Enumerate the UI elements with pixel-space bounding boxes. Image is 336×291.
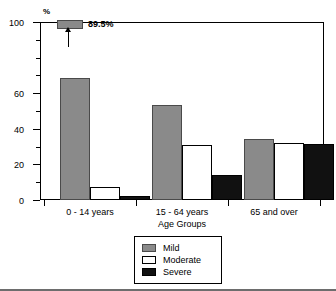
bar-group-0-14-years: 0 - 14 years — [44, 22, 136, 200]
x-label-15-64-years: 15 - 64 years — [156, 208, 209, 217]
y-tick-30 — [36, 147, 40, 148]
bar-group-15-64-years: 15 - 64 years — [136, 22, 228, 200]
x-tick-2 — [228, 200, 229, 206]
y-tick-label-20: 20 — [14, 161, 24, 170]
bar-group-65-and-over: 65 and over — [228, 22, 320, 200]
y-tick-100: 100 — [33, 22, 40, 23]
legend: Mild Moderate Severe — [134, 236, 222, 284]
bar-moderate-15-64-years — [182, 145, 212, 200]
bar-moderate-65-and-over — [274, 143, 304, 200]
legend-swatch-severe — [142, 268, 156, 276]
y-axis-unit-label: % — [43, 8, 50, 16]
x-tick-3 — [320, 200, 321, 206]
callout-value-label: 89.5% — [88, 20, 114, 29]
legend-item-mild: Mild — [142, 242, 214, 254]
y-tick-0: 0 — [33, 200, 40, 201]
x-tick-1 — [136, 200, 137, 206]
legend-label-severe: Severe — [163, 268, 192, 277]
chart-figure: % 100 60 40 20 0 — [0, 0, 336, 291]
legend-label-moderate: Moderate — [163, 256, 201, 265]
bar-mild-65-and-over — [244, 139, 274, 200]
x-label-0-14-years: 0 - 14 years — [66, 208, 114, 217]
y-tick-80 — [36, 58, 40, 59]
y-tick-10 — [36, 182, 40, 183]
legend-swatch-mild — [142, 244, 156, 252]
y-tick-50 — [36, 111, 40, 112]
legend-item-severe: Severe — [142, 266, 214, 278]
bar-severe-65-and-over — [304, 144, 334, 200]
x-label-65-and-over: 65 and over — [250, 208, 298, 217]
bar-moderate-0-14-years — [90, 187, 120, 200]
plot-area: 100 60 40 20 0 — [40, 22, 324, 200]
legend-swatch-moderate — [142, 256, 156, 264]
y-tick-label-40: 40 — [14, 125, 24, 134]
callout-arrow-icon — [68, 31, 69, 47]
y-tick-70 — [36, 75, 40, 76]
x-axis-title: Age Groups — [40, 219, 324, 229]
bar-mild-0-14-years — [60, 78, 90, 200]
y-tick-20: 20 — [33, 164, 40, 165]
y-tick-label-60: 60 — [14, 90, 24, 99]
x-tick-0 — [44, 200, 45, 206]
y-tick-label-0: 0 — [19, 197, 24, 206]
legend-item-moderate: Moderate — [142, 254, 214, 266]
bar-mild-15-64-years — [152, 105, 182, 200]
y-tick-90 — [36, 40, 40, 41]
y-tick-60: 60 — [33, 93, 40, 94]
y-tick-label-100: 100 — [9, 19, 24, 28]
y-tick-40: 40 — [33, 129, 40, 130]
legend-label-mild: Mild — [163, 244, 180, 253]
